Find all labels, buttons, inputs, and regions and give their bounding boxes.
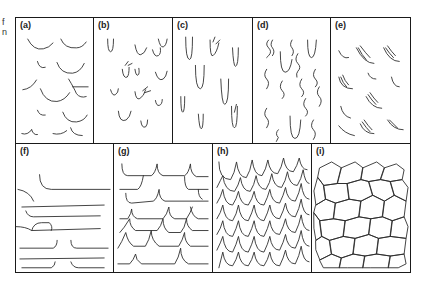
panel-d: (d)	[252, 17, 331, 144]
panel-a: (a)	[15, 17, 94, 144]
v-shaped-marks-drawing	[94, 18, 172, 143]
panel-i: (i)	[311, 143, 411, 273]
sinuous-marks-drawing	[253, 18, 330, 143]
panel-f: (f)	[15, 143, 114, 273]
overlapping-cusps-drawing	[213, 144, 311, 272]
imbricate-cusps-drawing	[114, 144, 212, 272]
margin-text-fragment-1: f	[2, 17, 5, 27]
panel-b: (b)	[93, 17, 173, 144]
polygonal-network-drawing	[312, 144, 410, 272]
margin-text-fragment-2: n	[2, 27, 7, 37]
panel-h: (h)	[212, 143, 312, 273]
longitudinal-ridges-drawing	[16, 144, 113, 272]
shallow-scour-marks-drawing	[16, 18, 93, 143]
elongated-v-marks-drawing	[173, 18, 252, 143]
panel-e: (e)	[330, 17, 411, 144]
panel-c: (c)	[172, 17, 253, 144]
hooked-scour-marks-drawing	[331, 18, 410, 143]
panel-g: (g)	[113, 143, 213, 273]
